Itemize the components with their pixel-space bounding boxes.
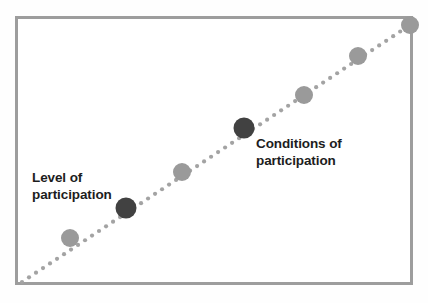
trend-line-dot <box>279 108 283 112</box>
trend-line-dot <box>391 34 395 38</box>
data-point-marker <box>61 229 79 247</box>
trend-line-dot <box>370 48 374 52</box>
diagram-canvas: Level of participation Conditions of par… <box>0 0 428 303</box>
trend-line-dot <box>342 67 346 71</box>
trend-line-dot <box>97 229 101 233</box>
trend-line-dot <box>335 71 339 75</box>
dotted-trend-line <box>20 25 409 284</box>
scatter-plot <box>0 0 428 303</box>
data-point-marker <box>295 86 313 104</box>
trend-line-dot <box>104 224 108 228</box>
data-point-marker-highlighted <box>234 118 255 139</box>
trend-line-dot <box>272 113 276 117</box>
trend-line-dot <box>83 238 87 242</box>
trend-line-dot <box>265 118 269 122</box>
trend-line-dot <box>41 266 45 270</box>
trend-line-dot <box>34 271 38 275</box>
trend-line-dot <box>139 201 143 205</box>
trend-line-dot <box>286 104 290 108</box>
trend-line-dot <box>167 182 171 186</box>
trend-line-dot <box>20 280 24 284</box>
trend-line-dot <box>55 257 59 261</box>
trend-line-dot <box>90 234 94 238</box>
trend-line-dot <box>398 29 402 33</box>
annotation-level-of-participation: Level of participation <box>32 170 112 203</box>
trend-line-dot <box>69 247 73 251</box>
trend-line-dot <box>321 80 325 84</box>
trend-line-dot <box>377 43 381 47</box>
trend-line-dot <box>146 196 150 200</box>
trend-line-dot <box>216 150 220 154</box>
trend-line-dot <box>223 145 227 149</box>
trend-line-dot <box>258 122 262 126</box>
trend-line-dot <box>27 275 31 279</box>
data-point-marker <box>349 47 367 65</box>
data-point-markers <box>61 16 419 247</box>
trend-line-dot <box>195 164 199 168</box>
trend-line-dot <box>328 76 332 80</box>
trend-line-dot <box>111 220 115 224</box>
trend-line-dot <box>48 261 52 265</box>
data-point-marker <box>401 16 419 34</box>
trend-line-dot <box>202 159 206 163</box>
annotation-conditions-of-participation: Conditions of participation <box>256 136 342 169</box>
data-point-marker-highlighted <box>116 198 137 219</box>
trend-line-dot <box>209 155 213 159</box>
data-point-marker <box>173 163 191 181</box>
trend-line-dot <box>62 252 66 256</box>
trend-line-dot <box>384 39 388 43</box>
trend-line-dot <box>230 141 234 145</box>
trend-line-dot <box>160 187 164 191</box>
trend-line-dot <box>153 192 157 196</box>
trend-line-dot <box>314 85 318 89</box>
